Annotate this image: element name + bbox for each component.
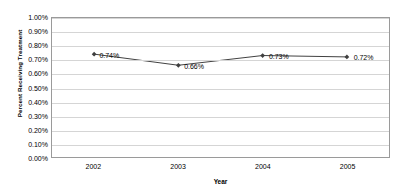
gridline xyxy=(52,89,389,90)
data-point-label: 0.73% xyxy=(269,53,289,60)
y-tick-label: 0.70% xyxy=(0,56,48,63)
gridline xyxy=(52,145,389,146)
data-point-marker xyxy=(92,52,97,57)
gridline xyxy=(52,46,389,47)
gridline xyxy=(52,32,389,33)
y-tick-label: 1.00% xyxy=(0,14,48,21)
data-point-marker xyxy=(176,63,181,68)
data-point-label: 0.74% xyxy=(99,51,119,58)
y-tick-label: 0.00% xyxy=(0,155,48,162)
line-chart: Percent Receiving Treatment 0.00%0.10%0.… xyxy=(0,0,403,193)
series-line xyxy=(52,18,389,157)
y-axis-tick-labels: 0.00%0.10%0.20%0.30%0.40%0.50%0.60%0.70%… xyxy=(0,17,48,158)
x-tick-label: 2003 xyxy=(148,163,208,171)
y-tick-label: 0.10% xyxy=(0,140,48,147)
x-axis-title: Year xyxy=(51,178,390,185)
gridline xyxy=(52,18,389,19)
x-tick-label: 2002 xyxy=(63,163,123,171)
gridline xyxy=(52,117,389,118)
y-tick-label: 0.90% xyxy=(0,28,48,35)
x-tick-label: 2005 xyxy=(318,163,378,171)
y-tick-label: 0.60% xyxy=(0,70,48,77)
y-tick-label: 0.20% xyxy=(0,126,48,133)
y-tick-label: 0.50% xyxy=(0,84,48,91)
y-tick-label: 0.30% xyxy=(0,112,48,119)
gridline xyxy=(52,60,389,61)
gridline xyxy=(52,74,389,75)
y-tick-label: 0.40% xyxy=(0,98,48,105)
x-axis-tick-labels: 2002200320042005 xyxy=(51,163,390,175)
plot-area: 0.74%0.66%0.73%0.72% xyxy=(51,17,390,158)
gridline xyxy=(52,131,389,132)
x-tick-label: 2004 xyxy=(233,163,293,171)
data-point-label: 0.66% xyxy=(184,62,204,69)
data-point-label: 0.72% xyxy=(354,54,374,61)
gridline xyxy=(52,103,389,104)
y-tick-label: 0.80% xyxy=(0,42,48,49)
data-point-marker xyxy=(260,53,265,58)
data-point-marker xyxy=(344,55,349,60)
